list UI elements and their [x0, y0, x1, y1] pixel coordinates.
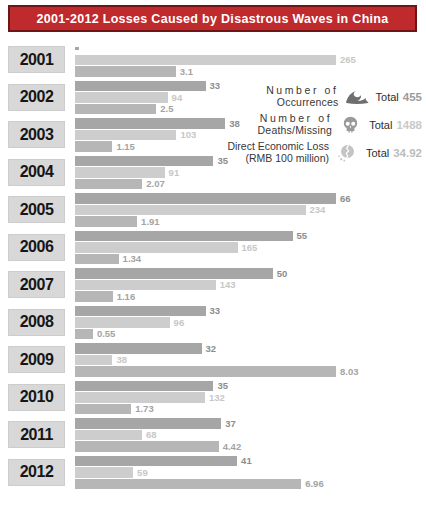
bars-container: 351321.73 — [75, 381, 228, 415]
bar-deaths — [75, 130, 176, 141]
bar-deaths — [75, 392, 205, 403]
bar-occurrences — [75, 81, 206, 92]
bar-deaths — [75, 242, 238, 253]
bar-slot: 91 — [75, 167, 228, 178]
bar-value-label: 4.42 — [223, 441, 242, 452]
bar-slot: 4.42 — [75, 441, 241, 452]
year-label: 2011 — [8, 421, 65, 448]
bar-slot: 68 — [75, 430, 241, 441]
bar-economic-loss — [75, 216, 137, 227]
bar-value-label: 2.5 — [160, 103, 173, 114]
bar-slot: 8.03 — [75, 366, 359, 377]
bar-occurrences — [75, 156, 213, 167]
bar-economic-loss — [75, 104, 156, 115]
bar-value-label: 1.16 — [117, 291, 136, 302]
bar-slot: 1.34 — [75, 254, 307, 265]
legend-label-deaths: Number of Deaths/Missing — [258, 113, 333, 137]
bar-value-label: 3.1 — [180, 66, 193, 77]
bar-slot: 234 — [75, 205, 351, 216]
bar-slot: 33 — [75, 306, 220, 317]
legend-row-economic-loss: Direct Economic Loss (RMB 100 million) T… — [227, 140, 422, 165]
bar-deaths — [75, 280, 216, 291]
bar-economic-loss — [75, 66, 176, 77]
year-label: 2001 — [8, 46, 65, 73]
bar-slot: 50 — [75, 268, 287, 279]
bar-slot: 143 — [75, 280, 287, 291]
bar-slot: 2.5 — [75, 104, 220, 115]
bar-economic-loss — [75, 179, 142, 190]
bar-slot: 2.07 — [75, 179, 228, 190]
bars-container: 33960.55 — [75, 306, 220, 340]
bar-economic-loss — [75, 366, 336, 377]
total-value-deaths: 1488 — [396, 119, 422, 131]
bar-slot: 103 — [75, 130, 240, 141]
skull-icon — [338, 114, 362, 136]
bar-value-label: 41 — [241, 455, 252, 466]
bar-economic-loss — [75, 254, 119, 265]
bars-container: 33942.5 — [75, 81, 220, 115]
bar-deaths — [75, 167, 165, 178]
bar-slot — [75, 43, 356, 54]
bar-slot: 1.91 — [75, 216, 351, 227]
year-label: 2003 — [8, 121, 65, 148]
bar-value-label: 59 — [137, 467, 148, 478]
year-label: 2004 — [8, 159, 65, 186]
bar-value-label: 143 — [220, 279, 236, 290]
bar-value-label: 0.55 — [97, 328, 116, 339]
bar-deaths — [75, 355, 112, 366]
bar-value-label: 33 — [210, 80, 221, 91]
bar-economic-loss — [75, 329, 93, 340]
bar-slot: 96 — [75, 317, 220, 328]
bar-occurrences — [75, 306, 206, 317]
bar-slot: 38 — [75, 118, 240, 129]
bar-slot: 59 — [75, 467, 324, 478]
legend: Number of Occurrences Total 455 Number o… — [227, 84, 422, 165]
year-group: 2007501431.16 — [8, 268, 359, 302]
bars-container: 2653.1 — [75, 43, 356, 77]
bar-slot: 35 — [75, 381, 228, 392]
year-group: 201137684.42 — [8, 418, 359, 452]
bar-occurrences — [75, 231, 293, 242]
year-label: 2009 — [8, 346, 65, 373]
bar-economic-loss — [75, 404, 131, 415]
bar-value-label: 32 — [206, 343, 217, 354]
bar-occurrences — [75, 193, 336, 204]
bar-slot: 0.55 — [75, 329, 220, 340]
bar-value-label: 33 — [210, 305, 221, 316]
year-group: 2010351321.73 — [8, 381, 359, 415]
bar-value-label: 35 — [217, 155, 228, 166]
year-label: 2007 — [8, 271, 65, 298]
chart-title: 2001-2012 Losses Caused by Disastrous Wa… — [8, 5, 417, 32]
legend-row-occurrences: Number of Occurrences Total 455 — [227, 84, 422, 109]
bar-value-label: 103 — [180, 129, 196, 140]
bars-container: 35912.07 — [75, 156, 228, 190]
bar-value-label: 94 — [172, 92, 183, 103]
bar-value-label: 1.15 — [116, 141, 135, 152]
bar-slot: 55 — [75, 231, 307, 242]
bar-slot: 6.96 — [75, 479, 324, 490]
bars-container: 381031.15 — [75, 118, 240, 152]
bars-container: 501431.16 — [75, 268, 287, 302]
bar-slot: 32 — [75, 343, 359, 354]
bar-occurrences — [75, 268, 273, 279]
bar-slot: 94 — [75, 92, 220, 103]
bar-slot: 41 — [75, 456, 324, 467]
wave-icon — [345, 86, 369, 108]
bars-container: 551651.34 — [75, 231, 307, 265]
bar-slot: 1.15 — [75, 141, 240, 152]
bar-slot: 165 — [75, 242, 307, 253]
year-group: 2006551651.34 — [8, 231, 359, 265]
bar-economic-loss — [75, 291, 113, 302]
year-group: 20012653.1 — [8, 43, 359, 77]
bar-value-label: 50 — [277, 268, 288, 279]
year-group: 201241596.96 — [8, 456, 359, 490]
bar-value-label: 6.96 — [305, 478, 324, 489]
bar-slot: 265 — [75, 55, 356, 66]
year-label: 2008 — [8, 309, 65, 336]
bar-slot: 37 — [75, 418, 241, 429]
cracked-coin-icon — [335, 142, 359, 164]
bar-value-label: 1.91 — [141, 216, 160, 227]
bar-occurrences — [75, 381, 213, 392]
year-label: 2005 — [8, 196, 65, 223]
bar-occurrences — [75, 343, 202, 354]
